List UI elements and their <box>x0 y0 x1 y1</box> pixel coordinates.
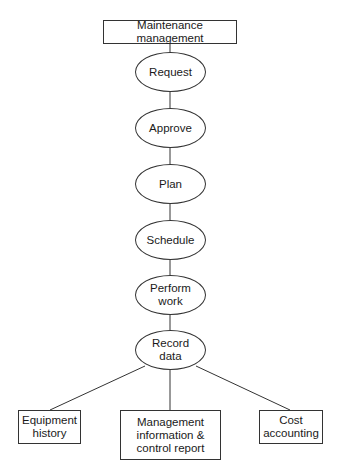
step-perform-work: Perform work <box>135 275 206 315</box>
output-management-info: Management information & control report <box>120 410 221 460</box>
step-record-data: Record data <box>135 330 206 370</box>
step-schedule: Schedule <box>135 220 206 260</box>
root-node: Maintenance management <box>103 20 237 44</box>
step-plan: Plan <box>135 164 206 204</box>
root-label: Maintenance management <box>104 19 236 45</box>
step-request: Request <box>135 52 206 92</box>
output-equipment-history: Equipment history <box>18 410 81 444</box>
output-cost-accounting: Cost accounting <box>259 410 323 444</box>
step-approve: Approve <box>135 108 206 148</box>
